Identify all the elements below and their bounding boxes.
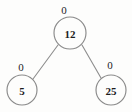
balance-factor-root: 0 <box>61 5 67 16</box>
node-label-right-child: 25 <box>106 85 117 96</box>
node-label-left-child: 5 <box>19 85 24 96</box>
balance-factor-right-child: 0 <box>107 60 113 71</box>
binary-tree-figure: 12 0 5 0 25 0 <box>0 0 132 112</box>
node-label-root: 12 <box>65 28 76 39</box>
edge-root-to-right-child <box>82 45 101 78</box>
edge-root-to-left-child <box>33 45 58 79</box>
balance-factor-left-child: 0 <box>18 62 24 73</box>
